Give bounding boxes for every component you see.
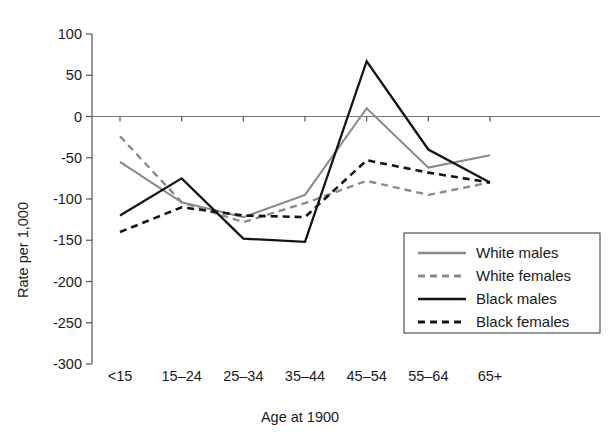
y-tick-label: -50 xyxy=(61,150,82,166)
x-axis-label: Age at 1900 xyxy=(261,409,339,425)
y-tick-group: 100500-50-100-150-200-250-300 xyxy=(53,26,92,372)
y-axis: 100500-50-100-150-200-250-300 xyxy=(53,26,92,372)
y-tick-label: 100 xyxy=(58,26,82,42)
y-tick-label: -100 xyxy=(53,191,82,207)
legend-label-white-females: White females xyxy=(476,267,571,284)
x-tick-label: 25–34 xyxy=(223,368,263,384)
x-tick-label: 35–44 xyxy=(285,368,325,384)
legend-label-white-males: White males xyxy=(476,244,559,261)
y-tick-label: 50 xyxy=(66,67,82,83)
x-tick-label: 65+ xyxy=(478,368,503,384)
series-group xyxy=(120,61,490,242)
y-tick-label: -300 xyxy=(53,356,82,372)
y-axis-label: Rate per 1,000 xyxy=(15,202,31,298)
x-tick-label: 15–24 xyxy=(162,368,202,384)
x-tick-label: 55–64 xyxy=(408,368,448,384)
y-tick-label: -150 xyxy=(53,232,82,248)
y-tick-label: -250 xyxy=(53,315,82,331)
legend-label-black-males: Black males xyxy=(476,290,557,307)
legend-label-black-females: Black females xyxy=(476,313,569,330)
y-tick-label: -200 xyxy=(53,274,82,290)
y-tick-label: 0 xyxy=(74,109,82,125)
series-line-white-males xyxy=(120,108,490,217)
chart-canvas: 100500-50-100-150-200-250-300 <1515–2425… xyxy=(0,0,613,446)
series-line-white-females xyxy=(120,136,490,222)
legend: White malesWhite femalesBlack malesBlack… xyxy=(404,233,600,333)
line-chart: 100500-50-100-150-200-250-300 <1515–2425… xyxy=(0,0,613,446)
x-tick-label: <15 xyxy=(108,368,133,384)
series-line-black-females xyxy=(120,160,490,232)
x-tick-label: 45–54 xyxy=(347,368,387,384)
series-line-black-males xyxy=(120,61,490,242)
